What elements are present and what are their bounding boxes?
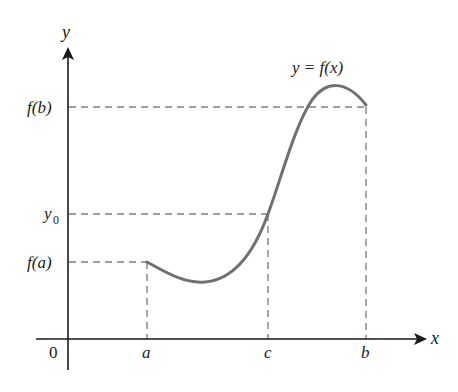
dashed-guides [69, 107, 366, 339]
svg-text:0: 0 [53, 213, 59, 227]
origin-label: 0 [49, 343, 58, 362]
tick-label-c: c [264, 343, 272, 362]
tick-label-a: a [142, 343, 151, 362]
x-axis-label: x [430, 328, 439, 348]
curve-label: y = f(x) [290, 58, 343, 77]
tick-label-fa: f(a) [27, 253, 52, 272]
tick-label-y0: y 0 [42, 204, 59, 227]
y-axis-label: y [60, 22, 70, 42]
tick-label-b: b [361, 343, 370, 362]
function-curve [147, 86, 366, 283]
tick-label-fb: f(b) [27, 98, 52, 117]
ivt-diagram: y = f(x) y x 0 a c b f(b) y 0 f(a) [0, 0, 458, 392]
svg-text:y: y [42, 204, 52, 223]
